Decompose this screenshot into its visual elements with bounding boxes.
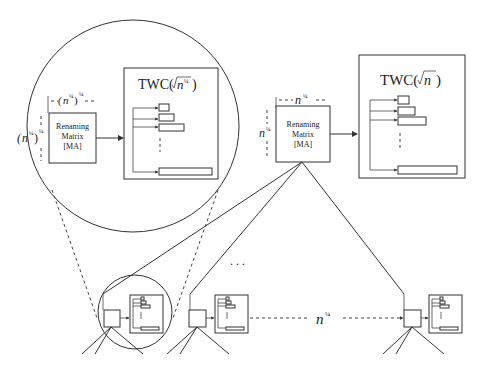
node2-matrix (189, 310, 206, 327)
top-height-label: n ¼ (259, 126, 271, 140)
bottom-node-3 (383, 294, 462, 354)
svg-text:¼: ¼ (39, 128, 44, 134)
spacing-label-n: n (316, 311, 324, 327)
svg-text:n: n (22, 131, 28, 145)
svg-text:n: n (177, 77, 184, 92)
bottom-node-1 (82, 275, 172, 354)
fan-line-3 (302, 162, 404, 294)
fan-line-2 (190, 162, 302, 294)
top-matrix-line2: Matrix (292, 130, 314, 139)
svg-text:n: n (259, 126, 265, 140)
spacing-label-exp: ¼ (325, 310, 330, 318)
zoom-matrix-line1: Renaming (56, 122, 89, 131)
svg-text:n: n (295, 93, 301, 107)
diagram-canvas: Renaming Matrix [MA] ( n ¼ ) ¼ ( n ¼ ) ¼… (0, 0, 484, 374)
fan-line-1 (103, 162, 302, 294)
svg-text:¼: ¼ (79, 91, 84, 97)
zoom-matrix-line2: Matrix (62, 132, 84, 141)
svg-text:): ) (34, 131, 38, 145)
zoom-height-label: ( n ¼ ) ¼ (17, 128, 44, 145)
svg-text:¼: ¼ (303, 93, 308, 99)
zoom-line-right (173, 190, 218, 318)
svg-text:): ) (74, 94, 78, 107)
node3-matrix (404, 310, 421, 327)
svg-text:¼: ¼ (184, 78, 189, 84)
svg-text:n: n (424, 73, 431, 88)
node1-matrix (104, 310, 120, 327)
zoom-width-label: ( n ¼ ) ¼ (58, 91, 84, 107)
bottom-node-2 (167, 294, 248, 354)
bottom-spacing: n ¼ (250, 310, 403, 327)
top-matrix-line3: [MA] (294, 140, 313, 149)
zoom-matrix-line3: [MA] (63, 142, 82, 151)
svg-text:TWC(: TWC( (380, 72, 418, 89)
svg-text:): ) (436, 72, 441, 89)
zoom-line-left (52, 190, 97, 318)
top-width-label: n ¼ (295, 93, 308, 107)
svg-text:): ) (192, 77, 197, 93)
zoom-circle-group: Renaming Matrix [MA] ( n ¼ ) ¼ ( n ¼ ) ¼… (17, 20, 239, 318)
top-matrix-line1: Renaming (287, 120, 320, 129)
svg-text:¼: ¼ (266, 126, 271, 132)
svg-text:TWC(: TWC( (138, 77, 174, 93)
ellipsis: . . . (230, 254, 245, 268)
